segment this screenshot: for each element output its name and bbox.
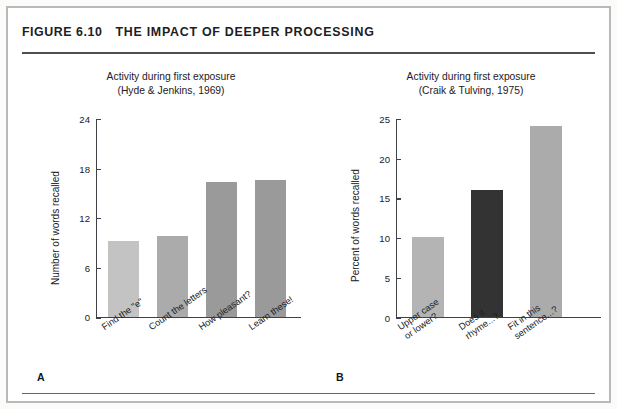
panel-a-bar-4	[255, 180, 286, 317]
panel-b-ytick-label-5: 5	[364, 272, 390, 283]
panel-a-plot: 24 18 12 6 0 Number of words recalled	[26, 70, 316, 390]
footer-divider	[22, 393, 595, 394]
header-divider	[22, 52, 595, 54]
panel-b-bar-2	[471, 190, 503, 317]
figure-canvas: FIGURE 6.10 THE IMPACT OF DEEPER PROCESS…	[8, 8, 609, 401]
panel-b-ytick-label-15: 15	[364, 193, 390, 204]
figure-page: FIGURE 6.10 THE IMPACT OF DEEPER PROCESS…	[0, 0, 617, 409]
panel-b-bar-3	[530, 126, 562, 317]
panel-a-ytick-label-24: 24	[64, 114, 90, 125]
panel-b-bars	[396, 117, 601, 317]
figure-title: THE IMPACT OF DEEPER PROCESSING	[115, 25, 374, 39]
panel-a-y-axis-title: Number of words recalled	[50, 171, 61, 285]
panel-b-ytick-label-0: 0	[364, 312, 390, 323]
chart-panel-a: Activity during first exposure (Hyde & J…	[26, 70, 316, 390]
panel-a-bar-3	[206, 182, 237, 317]
panel-b-y-axis-title: Percent of words recalled	[350, 169, 361, 282]
panel-b-plot: 25 20 15 10 5 0 Percent of words recalle…	[326, 70, 616, 390]
figure-header: FIGURE 6.10 THE IMPACT OF DEEPER PROCESS…	[22, 25, 375, 39]
chart-panel-b: Activity during first exposure (Craik & …	[326, 70, 616, 390]
figure-number: FIGURE 6.10	[22, 25, 102, 39]
panel-b-ytick-label-25: 25	[364, 114, 390, 125]
panel-a-ytick-label-18: 18	[64, 163, 90, 174]
panel-a-ytick-label-6: 6	[64, 262, 90, 273]
panel-a-ytick-label-12: 12	[64, 213, 90, 224]
panel-a-ytick-mark-0	[96, 317, 101, 318]
panel-a-ytick-label-0: 0	[64, 312, 90, 323]
panel-a-letter: A	[37, 371, 45, 383]
panel-b-letter: B	[336, 371, 344, 383]
panel-b-ytick-label-20: 20	[364, 153, 390, 164]
page-border-bottom	[6, 401, 611, 403]
panel-b-ytick-mark-0	[396, 318, 401, 319]
panel-b-ytick-label-10: 10	[364, 233, 390, 244]
